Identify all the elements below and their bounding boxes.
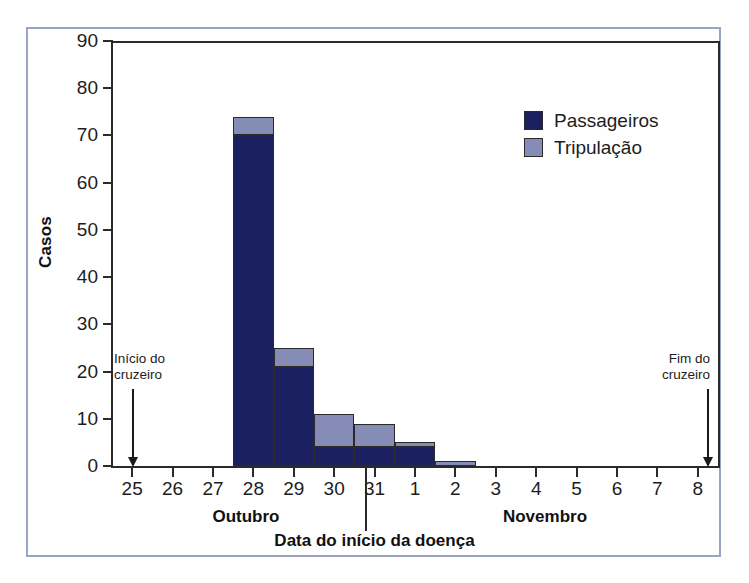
y-axis-tick	[103, 323, 112, 325]
plot-area	[112, 41, 720, 468]
y-axis-tick-label: 80	[52, 78, 98, 97]
x-axis-tick-label: 3	[476, 478, 516, 500]
annotation-cruise-start-line1: Início do	[114, 351, 165, 367]
y-axis-tick-label: 0	[52, 456, 98, 475]
month-label-outubro: Outubro	[156, 507, 336, 527]
bar-group	[395, 442, 435, 466]
x-axis-tick	[414, 468, 416, 477]
bar-segment-tripulacao	[435, 461, 475, 466]
annotation-cruise-start: Início do cruzeiro	[114, 351, 165, 383]
legend-item-passageiros: Passageiros	[524, 107, 659, 134]
x-axis-tick-label: 5	[557, 478, 597, 500]
y-axis-tick	[103, 229, 112, 231]
x-axis-tick-label: 6	[597, 478, 637, 500]
y-axis-tick	[103, 371, 112, 373]
y-axis-tick	[103, 465, 112, 467]
x-axis-tick	[576, 468, 578, 477]
bar-group	[274, 348, 314, 466]
annotation-cruise-start-arrow	[132, 389, 134, 457]
x-axis-tick-label: 31	[355, 478, 395, 500]
bar-group	[314, 414, 354, 466]
x-axis-tick-label: 26	[153, 478, 193, 500]
bar-segment-tripulacao	[274, 348, 314, 367]
x-axis-tick-label: 27	[193, 478, 233, 500]
legend-label-tripulacao: Tripulação	[554, 137, 642, 159]
legend-label-passageiros: Passageiros	[554, 110, 659, 132]
bar-segment-passageiros	[354, 447, 394, 466]
bar-segment-tripulacao	[354, 424, 394, 448]
y-axis-tick-label: 30	[52, 314, 98, 333]
x-axis-tick	[212, 468, 214, 477]
bar-segment-passageiros	[274, 367, 314, 466]
y-axis-tick-label: 90	[52, 31, 98, 50]
bar-group	[435, 461, 475, 466]
bar-segment-tripulacao	[314, 414, 354, 447]
chart-figure: 9080706050403020100 Casos 25262728293031…	[0, 0, 749, 583]
x-axis-tick	[172, 468, 174, 477]
legend-swatch-passageiros	[524, 111, 543, 130]
x-axis-tick	[252, 468, 254, 477]
bar-segment-passageiros	[395, 447, 435, 466]
y-axis-tick-label: 60	[52, 173, 98, 192]
x-axis-tick-label: 4	[516, 478, 556, 500]
y-axis-tick-label: 10	[52, 409, 98, 428]
bar-group	[233, 117, 273, 466]
y-axis-line	[111, 40, 113, 468]
x-axis-tick	[333, 468, 335, 477]
y-axis-tick	[103, 134, 112, 136]
bar-group	[354, 424, 394, 467]
legend-item-tripulacao: Tripulação	[524, 134, 659, 161]
annotation-cruise-start-line2: cruzeiro	[114, 367, 165, 383]
y-axis-tick-label: 50	[52, 220, 98, 239]
bar-segment-tripulacao	[233, 117, 273, 136]
annotation-cruise-end-line1: Fim do	[662, 351, 710, 367]
x-axis-tick	[374, 468, 376, 477]
y-axis-tick	[103, 40, 112, 42]
bar-segment-passageiros	[314, 447, 354, 466]
legend-swatch-tripulacao	[524, 138, 543, 157]
down-arrow-icon	[703, 457, 713, 467]
x-axis-tick-label: 30	[314, 478, 354, 500]
y-axis-tick-label: 70	[52, 125, 98, 144]
legend: Passageiros Tripulação	[524, 107, 659, 161]
y-axis-tick	[103, 87, 112, 89]
month-divider	[365, 463, 367, 531]
annotation-cruise-end-arrow	[707, 389, 709, 457]
y-axis-tick-label: 20	[52, 362, 98, 381]
x-axis-tick	[131, 468, 133, 477]
x-axis-title: Data do início da doença	[0, 531, 749, 551]
y-axis-tick	[103, 418, 112, 420]
y-axis-tick-label: 40	[52, 267, 98, 286]
bar-segment-passageiros	[233, 135, 273, 466]
month-label-novembro: Novembro	[455, 507, 635, 527]
x-axis-tick-label: 2	[435, 478, 475, 500]
x-axis-tick-label: 28	[233, 478, 273, 500]
y-axis-tick	[103, 182, 112, 184]
x-axis-tick-label: 25	[112, 478, 152, 500]
x-axis-tick	[616, 468, 618, 477]
down-arrow-icon	[128, 457, 138, 467]
y-axis-tick	[103, 276, 112, 278]
x-axis-tick-label: 7	[637, 478, 677, 500]
x-axis-tick	[535, 468, 537, 477]
x-axis-tick-label: 29	[274, 478, 314, 500]
x-axis-tick	[293, 468, 295, 477]
annotation-cruise-end: Fim do cruzeiro	[662, 351, 710, 383]
x-axis-tick	[454, 468, 456, 477]
x-axis-tick-label: 8	[678, 478, 718, 500]
x-axis-tick	[697, 468, 699, 477]
annotation-cruise-end-line2: cruzeiro	[662, 367, 710, 383]
y-axis-title: Casos	[36, 187, 56, 297]
x-axis-tick	[495, 468, 497, 477]
x-axis-tick-label: 1	[395, 478, 435, 500]
x-axis-tick	[656, 468, 658, 477]
